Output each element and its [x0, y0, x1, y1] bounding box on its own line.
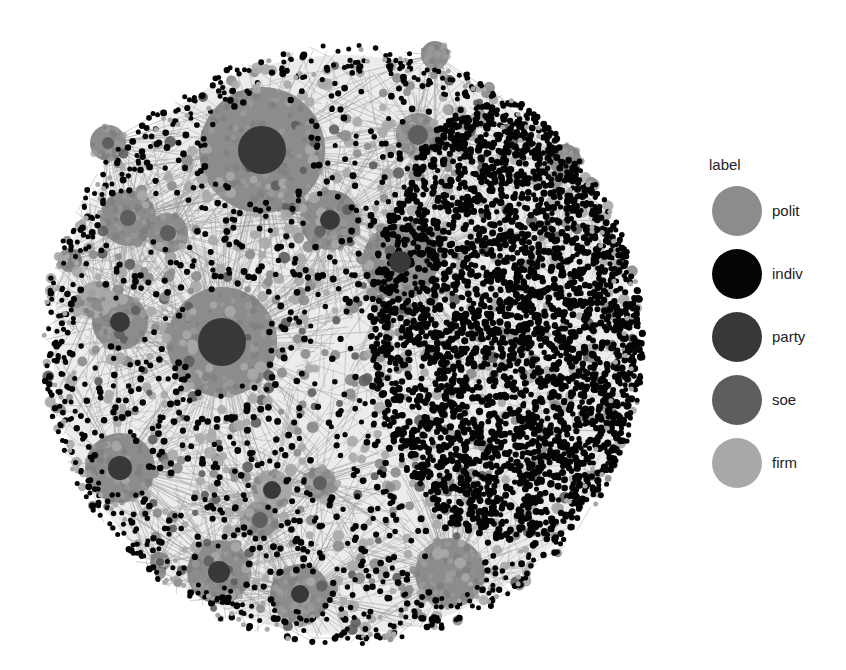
- legend-label: polit: [772, 202, 800, 219]
- legend-label: indiv: [772, 265, 803, 282]
- legend: label polit indiv party soe firm: [700, 156, 840, 494]
- legend-item-party: party: [700, 305, 840, 368]
- legend-swatch-soe: [712, 375, 762, 425]
- legend-label: party: [772, 328, 805, 345]
- legend-title: label: [709, 156, 840, 173]
- legend-item-firm: firm: [700, 431, 840, 494]
- legend-label: soe: [772, 391, 796, 408]
- legend-swatch-party: [712, 312, 762, 362]
- legend-swatch-polit: [712, 186, 762, 236]
- legend-item-polit: polit: [700, 179, 840, 242]
- legend-item-indiv: indiv: [700, 242, 840, 305]
- legend-item-soe: soe: [700, 368, 840, 431]
- legend-label: firm: [772, 454, 797, 471]
- legend-swatch-firm: [712, 438, 762, 488]
- legend-swatch-indiv: [712, 249, 762, 299]
